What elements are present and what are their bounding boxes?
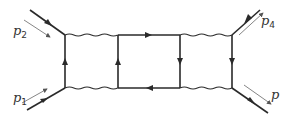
arrow-down-icon <box>177 58 183 65</box>
photon-line-top-left <box>65 34 118 36</box>
momentum-arrow-p <box>244 85 271 104</box>
label-p4: p4 <box>261 13 275 30</box>
photon-line-top-right <box>180 34 232 36</box>
photon-line-bottom-left <box>65 87 118 89</box>
arrow-up-icon <box>115 58 121 65</box>
label-p2: p2 <box>13 23 27 40</box>
photon-line-bottom-right <box>180 87 232 89</box>
feynman-diagram: p2 p1 p4 p <box>0 0 291 120</box>
label-p1: p1 <box>13 90 27 107</box>
label-p: p <box>271 87 280 102</box>
arrow-up-icon <box>62 58 68 65</box>
arrow-left-icon <box>146 85 153 91</box>
arrow-right-icon <box>145 32 152 38</box>
arrow-p-icon <box>247 97 256 105</box>
arrow-down-icon <box>229 58 235 65</box>
momentum-arrow-p4 <box>239 13 263 35</box>
